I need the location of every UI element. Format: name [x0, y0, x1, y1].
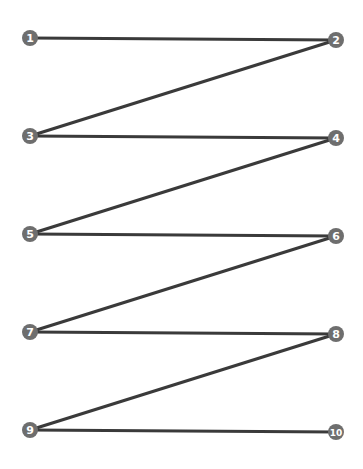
node-label: 10	[330, 428, 343, 438]
node-8: 8	[328, 326, 344, 342]
edge-5-6	[30, 234, 336, 236]
node-label: 3	[26, 130, 34, 143]
zigzag-diagram: 12345678910	[0, 0, 363, 469]
node-label: 8	[332, 328, 340, 341]
edge-7-8	[30, 332, 336, 334]
node-10: 10	[328, 424, 344, 440]
node-label: 5	[26, 228, 34, 241]
edge-2-3	[30, 40, 336, 136]
node-9: 9	[22, 422, 38, 438]
node-1: 1	[22, 30, 38, 46]
edge-1-2	[30, 38, 336, 40]
edge-8-9	[30, 334, 336, 430]
node-7: 7	[22, 324, 38, 340]
node-5: 5	[22, 226, 38, 242]
node-label: 1	[26, 32, 34, 45]
node-label: 2	[332, 34, 340, 47]
edges	[30, 38, 336, 432]
edge-6-7	[30, 236, 336, 332]
node-2: 2	[328, 32, 344, 48]
node-4: 4	[328, 130, 344, 146]
edge-9-10	[30, 430, 336, 432]
node-6: 6	[328, 228, 344, 244]
edge-4-5	[30, 138, 336, 234]
edge-3-4	[30, 136, 336, 138]
node-label: 6	[332, 230, 340, 243]
node-3: 3	[22, 128, 38, 144]
node-label: 9	[26, 424, 34, 437]
node-label: 7	[26, 326, 34, 339]
node-label: 4	[332, 132, 340, 145]
